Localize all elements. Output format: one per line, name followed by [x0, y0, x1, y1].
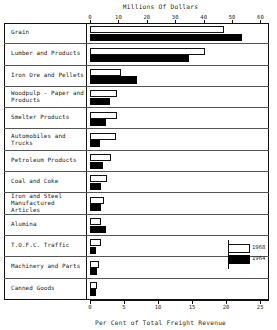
row-bars: [90, 279, 269, 300]
row-bars: [90, 44, 269, 64]
top-axis-title: Millions Of Dollars: [0, 3, 277, 10]
row-category-label: Machinery and Parts: [11, 264, 87, 271]
bar-1964: [90, 119, 106, 126]
row-category-label: Smelter Products: [11, 115, 87, 122]
legend: 1968 1964: [228, 240, 270, 270]
bar-1968: [90, 112, 117, 119]
chart-row: Canned Goods: [4, 279, 269, 300]
chart-row: Petroleum Products: [4, 151, 269, 172]
chart-row: Lumber and Products: [4, 44, 269, 65]
row-bars: [90, 215, 269, 235]
legend-swatch-1964: [228, 255, 250, 264]
bar-1964: [90, 226, 106, 233]
row-category-label: Grain: [11, 29, 87, 36]
bar-1968: [90, 261, 99, 268]
row-category-label: Iron Ore and Pellets: [11, 72, 87, 79]
bar-1968: [90, 90, 117, 97]
bar-1964: [90, 34, 242, 41]
chart-row: Woodpulp - Paper andProducts: [4, 87, 269, 108]
bar-1968: [90, 239, 101, 246]
bar-1968: [90, 197, 104, 204]
bar-1964: [90, 98, 110, 105]
row-category-label: Petroleum Products: [11, 157, 87, 164]
chart-row: Iron Ore and Pellets: [4, 66, 269, 87]
row-bars: [90, 87, 269, 107]
axis-tick-label: 50: [229, 14, 236, 20]
row-category-label: Lumber and Products: [11, 51, 87, 58]
row-bars: [90, 23, 269, 43]
legend-label-1968: 1968: [252, 244, 265, 250]
bar-1964: [90, 204, 101, 211]
axis-tick-label: 40: [200, 14, 207, 20]
chart-row: Automobiles and Trucks: [4, 129, 269, 150]
row-category-label: Woodpulp - Paper andProducts: [11, 90, 87, 105]
axis-tick-label: 10: [115, 14, 122, 20]
row-bars: [90, 151, 269, 171]
chart-row: Coal and Coke: [4, 172, 269, 193]
axis-tick-label: 5: [122, 304, 125, 310]
axis-tick-label: 60: [257, 14, 264, 20]
bottom-axis: 0510152025: [90, 300, 269, 310]
row-bars: [90, 129, 269, 149]
row-category-label: Canned Goods: [11, 286, 87, 293]
axis-tick-label: 30: [172, 14, 179, 20]
axis-tick-label: 0: [88, 304, 91, 310]
axis-tick-label: 20: [223, 304, 230, 310]
row-category-label: T.O.F.C. Traffic: [11, 242, 87, 249]
bar-1964: [90, 247, 96, 254]
legend-label-1964: 1964: [252, 255, 265, 261]
chart-row: Alumina: [4, 215, 269, 236]
chart-row: Smelter Products: [4, 108, 269, 129]
row-bars: [90, 66, 269, 86]
legend-swatch-1968: [228, 244, 250, 253]
bar-1964: [90, 76, 137, 83]
bar-1964: [90, 162, 103, 169]
axis-tick-label: 15: [189, 304, 196, 310]
axis-tick-label: 20: [143, 14, 150, 20]
bar-1964: [90, 140, 100, 147]
row-category-label: Coal and Coke: [11, 179, 87, 186]
bottom-axis-title: Per Cent of Total Freight Revenue: [0, 319, 277, 326]
bar-1964: [90, 289, 96, 296]
bar-1968: [90, 154, 111, 161]
bar-1968: [90, 175, 107, 182]
axis-tick-label: 0: [88, 14, 91, 20]
bar-1968: [90, 69, 121, 76]
freight-revenue-bar-chart: Millions Of Dollars 0102030405060 GrainL…: [0, 0, 277, 330]
axis-tick-label: 10: [155, 304, 162, 310]
chart-row: Iron and SteelManufactured Articles: [4, 193, 269, 214]
bar-1968: [90, 133, 116, 140]
bottom-axis-line: [90, 300, 269, 301]
bar-1968: [90, 26, 224, 33]
row-category-label: Iron and SteelManufactured Articles: [11, 192, 87, 214]
row-category-label: Automobiles and Trucks: [11, 132, 87, 147]
bar-1964: [90, 183, 101, 190]
bar-1968: [90, 282, 97, 289]
row-bars: [90, 193, 269, 213]
row-bars: [90, 172, 269, 192]
bar-1964: [90, 55, 189, 62]
row-category-label: Alumina: [11, 221, 87, 228]
row-bars: [90, 108, 269, 128]
bar-1968: [90, 48, 205, 55]
bar-1964: [90, 268, 97, 275]
axis-tick-label: 25: [257, 304, 264, 310]
bar-1968: [90, 218, 101, 225]
chart-row: Grain: [4, 23, 269, 44]
